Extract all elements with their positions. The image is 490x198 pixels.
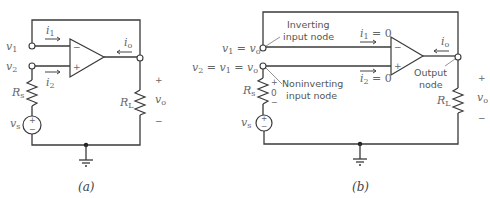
vo-plus: + bbox=[155, 75, 163, 85]
output-node-label-line2: node bbox=[419, 79, 443, 90]
output-node bbox=[455, 54, 461, 60]
vo-label: vo bbox=[155, 93, 166, 107]
bottom-wire bbox=[32, 115, 140, 145]
output-node bbox=[137, 55, 143, 61]
v2-label: v2 bbox=[6, 60, 17, 74]
rs-voltage-plus: + bbox=[271, 78, 278, 87]
vo-minus: − bbox=[478, 113, 486, 123]
opamp-circuit-figure: − + + − bbox=[0, 0, 490, 198]
opamp-plus-sign: + bbox=[394, 61, 402, 71]
vs-label: vs bbox=[10, 117, 20, 131]
panel-a-caption: (a) bbox=[78, 180, 95, 194]
io-label: io bbox=[441, 35, 450, 49]
rs-voltage-zero: 0 bbox=[271, 88, 277, 98]
panel-a: − + + − bbox=[6, 20, 166, 194]
inverting-input-node bbox=[260, 45, 266, 51]
i2-equals-zero-label: i2 = 0 bbox=[360, 72, 392, 86]
opamp-plus-sign: + bbox=[73, 62, 81, 72]
noninverting-input-node-label-line2: input node bbox=[286, 90, 337, 101]
v1-equals-vo-label: v1 = vo bbox=[222, 42, 261, 56]
bottom-wire bbox=[264, 113, 458, 144]
rl-label: RL bbox=[119, 96, 134, 110]
vs-minus: − bbox=[261, 122, 267, 131]
i2-label: i2 bbox=[46, 76, 55, 90]
vs-plus: + bbox=[29, 116, 36, 125]
rs-label: Rs bbox=[11, 86, 24, 100]
rl-label: RL bbox=[436, 94, 451, 108]
vs-minus: − bbox=[29, 125, 36, 134]
noninverting-input-node bbox=[260, 63, 266, 69]
i2-arrow-icon bbox=[45, 70, 60, 74]
rs-voltage-minus: − bbox=[271, 98, 278, 107]
opamp-minus-sign: − bbox=[73, 42, 81, 52]
inverting-input-node-label-line2: input node bbox=[283, 31, 334, 42]
v2-node bbox=[29, 63, 35, 69]
rs-resistor bbox=[258, 78, 268, 104]
rl-resistor bbox=[453, 88, 463, 113]
io-label: io bbox=[124, 36, 133, 50]
opamp-minus-sign: − bbox=[394, 42, 402, 52]
rs-resistor bbox=[27, 80, 37, 106]
io-arrow-icon bbox=[117, 50, 132, 54]
panel-b-caption: (b) bbox=[352, 180, 369, 194]
v2-equals-v1-equals-vo-label: v2 = v1 = vo bbox=[192, 61, 258, 75]
v1-node bbox=[29, 43, 35, 49]
ground-icon bbox=[353, 159, 367, 165]
inverting-leader-line bbox=[266, 37, 280, 46]
ground-icon bbox=[79, 160, 93, 166]
vo-minus: − bbox=[155, 116, 163, 126]
i1-equals-zero-label: i1 = 0 bbox=[360, 27, 392, 41]
i1-label: i1 bbox=[46, 24, 55, 38]
output-node-label-line1: Output bbox=[414, 67, 447, 78]
inverting-input-node-label-line1: Inverting bbox=[287, 19, 330, 30]
output-leader-line bbox=[445, 59, 455, 66]
vo-label: vo bbox=[477, 91, 488, 105]
v1-label: v1 bbox=[6, 40, 17, 54]
rl-resistor bbox=[135, 90, 145, 115]
vs-label: vs bbox=[241, 116, 251, 130]
rs-label: Rs bbox=[242, 84, 255, 98]
io-arrow-icon bbox=[434, 49, 449, 53]
noninverting-input-node-label-line1: Noninverting bbox=[282, 78, 343, 89]
vo-plus: + bbox=[478, 73, 486, 83]
panel-b: − + + − bbox=[192, 12, 488, 194]
